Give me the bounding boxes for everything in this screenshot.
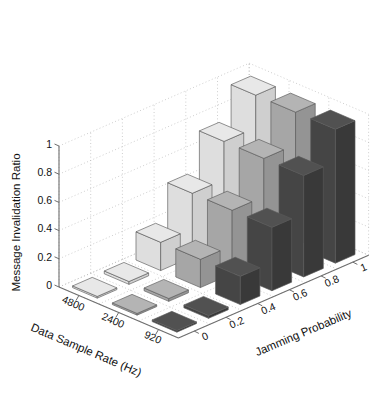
z-axis-tick xyxy=(55,200,60,202)
y-axis-tick-label-1: 1 xyxy=(358,260,368,273)
bar-x920-y0.8-face-right xyxy=(304,167,324,277)
y-axis-tick xyxy=(194,331,199,333)
z-axis-tick xyxy=(55,285,60,287)
z-axis-tick-label-1: 1 xyxy=(46,138,52,150)
z-axis-tick-label-0: 0 xyxy=(46,279,52,291)
bar-x4800-y0-face-top xyxy=(73,277,117,296)
chart-figure: 00.20.40.60.81Message Invalidation Ratio… xyxy=(0,0,376,395)
z-axis-tick-label-0.6: 0.6 xyxy=(37,194,52,206)
z-axis-tick-label-0.8: 0.8 xyxy=(37,166,52,178)
x-axis-title: Data Sample Rate (Hz) xyxy=(29,321,143,379)
bar-x920-y0-face-top xyxy=(152,311,196,330)
z-axis-tick xyxy=(55,229,60,231)
bar-x920-y1-face-right xyxy=(335,121,355,264)
y-axis-tick-label-0.2: 0.2 xyxy=(227,314,245,331)
bar3d-chart-canvas: 00.20.40.60.81Message Invalidation Ratio… xyxy=(0,0,376,395)
z-axis-tick-label-0.2: 0.2 xyxy=(37,251,52,263)
bar-x920-y0.6-face-right xyxy=(272,219,292,291)
y-axis-tick-label-0.4: 0.4 xyxy=(259,300,277,317)
y-axis-tick-label-0: 0 xyxy=(200,329,210,342)
x-axis-tick-label-2400: 2400 xyxy=(100,310,126,330)
z-axis-tick xyxy=(55,172,60,174)
y-axis-tick-label-0.6: 0.6 xyxy=(291,286,309,303)
y-axis-tick-label-0.8: 0.8 xyxy=(323,272,341,289)
z-axis-title: Message Invalidation Ratio xyxy=(10,153,22,291)
z-axis-tick xyxy=(55,257,60,259)
bar-x2400-y0-face-top xyxy=(112,294,156,313)
x-axis-tick-label-4800: 4800 xyxy=(60,293,86,313)
z-axis-tick xyxy=(55,144,60,146)
z-axis-tick-label-0.4: 0.4 xyxy=(37,222,52,234)
y-axis-tick xyxy=(353,262,358,264)
